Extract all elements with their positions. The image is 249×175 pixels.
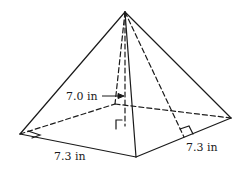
right-angle-marker-left	[28, 131, 40, 138]
hidden-base-edge-left-back	[20, 104, 115, 134]
base-right-label: 7.3 in	[186, 141, 218, 154]
slant-height-line	[125, 12, 184, 137]
hidden-edge-apex-back	[115, 12, 125, 104]
height-label: 7.0 in	[66, 90, 98, 103]
edge-apex-left	[20, 12, 125, 134]
edge-apex-right	[125, 12, 231, 118]
pyramid-diagram: 7.0 in 7.3 in 7.3 in	[0, 0, 249, 175]
right-angle-marker-height	[116, 120, 122, 129]
base-front-label: 7.3 in	[54, 150, 86, 163]
arrowhead-icon	[118, 94, 124, 99]
edge-apex-front	[125, 12, 136, 157]
